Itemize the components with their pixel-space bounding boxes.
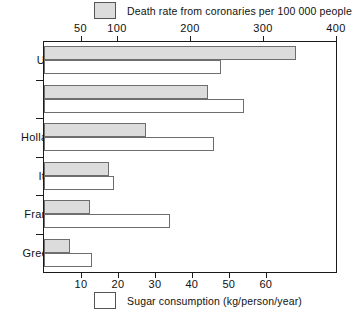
bar-sugar-france (44, 214, 170, 228)
bar-death-rate-uk (44, 85, 208, 99)
bar-death-rate-holland (44, 123, 146, 137)
legend-swatch-sugar-icon (94, 292, 116, 309)
top-axis-tick-label: 50 (74, 22, 87, 34)
category-axis-tick (36, 195, 43, 196)
bottom-axis-line (43, 272, 337, 273)
top-axis-tick-label: 200 (180, 22, 199, 34)
top-axis-line (43, 41, 337, 42)
bar-death-rate-france (44, 200, 90, 214)
legend-swatch-death-rate-icon (94, 2, 116, 19)
category-axis-tick (36, 118, 43, 119)
bottom-axis-tick-label: 40 (185, 278, 198, 290)
bar-sugar-greece (44, 253, 92, 267)
bar-sugar-usa (44, 60, 221, 74)
bottom-axis-tick-label: 50 (222, 278, 235, 290)
top-axis-tick (81, 36, 82, 41)
bar-sugar-italy (44, 176, 114, 190)
legend-death-rate: Death rate from coronaries per 100 000 p… (94, 2, 352, 19)
bar-sugar-uk (44, 99, 244, 113)
top-axis-tick-label: 300 (253, 22, 272, 34)
bar-death-rate-greece (44, 239, 70, 253)
bar-chart: Death rate from coronaries per 100 000 p… (0, 0, 354, 316)
bar-death-rate-usa (44, 46, 296, 60)
bottom-axis-tick-label: 60 (259, 278, 272, 290)
legend-label-sugar: Sugar consumption (kg/person/year) (127, 295, 302, 307)
top-axis-tick (190, 36, 191, 41)
bar-death-rate-italy (44, 162, 109, 176)
top-axis-tick (117, 36, 118, 41)
bottom-axis-tick-label: 20 (111, 278, 124, 290)
bottom-axis-tick-label: 30 (148, 278, 161, 290)
legend-sugar-consumption: Sugar consumption (kg/person/year) (94, 292, 302, 309)
category-axis-tick (36, 80, 43, 81)
top-axis-tick-label: 100 (107, 22, 126, 34)
bar-sugar-holland (44, 137, 214, 151)
category-axis-tick (36, 234, 43, 235)
top-axis-tick-label: 400 (326, 22, 345, 34)
top-axis-tick (263, 36, 264, 41)
right-axis-line (336, 41, 337, 273)
category-axis-tick (36, 157, 43, 158)
bottom-axis-tick-label: 10 (75, 278, 88, 290)
legend-label-death-rate: Death rate from coronaries per 100 000 p… (127, 5, 352, 17)
